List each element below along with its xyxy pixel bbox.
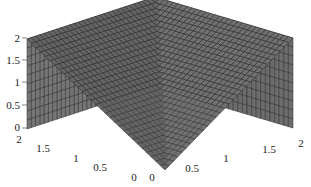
mesh-side	[265, 75, 270, 85]
mesh-side	[270, 103, 275, 113]
mesh-side	[261, 109, 266, 119]
mesh-side	[288, 91, 293, 101]
mesh-side	[247, 105, 252, 115]
mesh-side	[256, 81, 261, 91]
mesh-side	[256, 108, 261, 118]
mesh-side	[40, 69, 44, 79]
y-tick-label: 1	[73, 152, 79, 164]
mesh-side	[275, 114, 280, 124]
mesh-side	[265, 66, 270, 76]
mesh-side	[31, 54, 35, 64]
mesh-side	[65, 88, 69, 98]
mesh-side	[247, 96, 252, 106]
z-tick-label: 2	[15, 32, 21, 44]
mesh-side	[74, 94, 78, 104]
mesh-side	[284, 53, 289, 63]
mesh-side	[284, 98, 289, 108]
mesh-side	[53, 110, 57, 120]
mesh-side	[279, 70, 284, 80]
mesh-side	[78, 93, 82, 103]
mesh-side	[40, 78, 44, 88]
mesh-side	[70, 87, 74, 97]
mesh-side	[36, 62, 40, 72]
mesh-side	[252, 89, 257, 99]
mesh-side	[27, 119, 31, 129]
mesh-side	[275, 105, 280, 115]
mesh-side	[270, 94, 275, 104]
mesh-side	[27, 65, 31, 75]
mesh-side	[288, 109, 293, 119]
y-tick-label: 2	[16, 133, 22, 145]
z-tick-label: 1	[15, 76, 21, 88]
mesh-side	[36, 71, 40, 81]
mesh-side	[256, 90, 261, 100]
mesh-side	[288, 118, 293, 128]
x-tick-label: 2	[298, 137, 304, 149]
mesh-side	[44, 95, 48, 105]
mesh-side	[270, 112, 275, 122]
mesh-side	[284, 116, 289, 126]
mesh-side	[252, 80, 257, 90]
mesh-side	[279, 106, 284, 116]
mesh-side	[288, 100, 293, 110]
mesh-side	[36, 89, 40, 99]
mesh-side	[275, 69, 280, 79]
mesh-side	[265, 84, 270, 94]
mesh-side	[57, 82, 61, 92]
mesh-side	[252, 107, 257, 117]
mesh-surface	[27, 0, 293, 170]
mesh-side	[53, 101, 57, 111]
mesh-side	[61, 98, 65, 108]
mesh-side	[70, 105, 74, 115]
mesh-side	[57, 91, 61, 101]
mesh-side	[36, 116, 40, 126]
mesh-side	[40, 96, 44, 106]
mesh-side	[27, 92, 31, 102]
mesh-face	[160, 164, 169, 170]
mesh-side	[31, 99, 35, 109]
mesh-side	[61, 80, 65, 90]
mesh-side	[238, 94, 243, 104]
y-tick-label: 0	[131, 171, 137, 183]
mesh-side	[44, 113, 48, 123]
mesh-side	[261, 91, 266, 101]
mesh-side	[48, 112, 52, 122]
mesh-side	[261, 100, 266, 110]
mesh-side	[57, 109, 61, 119]
z-tick-label: 1.5	[6, 54, 20, 66]
mesh-side	[44, 86, 48, 96]
mesh-side	[61, 107, 65, 117]
mesh-side	[31, 108, 35, 118]
mesh-side	[53, 83, 57, 93]
x-tick-label: 1.5	[262, 143, 276, 155]
mesh-side	[31, 63, 35, 73]
mesh-side	[40, 114, 44, 124]
mesh-side	[65, 79, 69, 89]
mesh-side	[44, 77, 48, 87]
mesh-side	[284, 62, 289, 72]
mesh-side	[279, 88, 284, 98]
mesh-side	[247, 87, 252, 97]
mesh-side	[31, 72, 35, 82]
mesh-side	[36, 98, 40, 108]
mesh-side	[288, 46, 293, 56]
mesh-side	[74, 103, 78, 113]
mesh-side	[31, 81, 35, 91]
mesh-side	[27, 47, 31, 57]
mesh-side	[279, 61, 284, 71]
mesh-side	[242, 95, 247, 105]
mesh-side	[288, 55, 293, 65]
mesh-side	[275, 78, 280, 88]
mesh-side	[275, 60, 280, 70]
mesh-side	[265, 93, 270, 103]
mesh-side	[252, 98, 257, 108]
mesh-side	[61, 89, 65, 99]
mesh-side	[270, 76, 275, 86]
mesh-side	[53, 92, 57, 102]
mesh-side	[48, 67, 52, 77]
mesh-side	[44, 59, 48, 69]
mesh-side	[284, 89, 289, 99]
mesh-side	[265, 102, 270, 112]
mesh-side	[279, 79, 284, 89]
mesh-side	[233, 101, 238, 111]
